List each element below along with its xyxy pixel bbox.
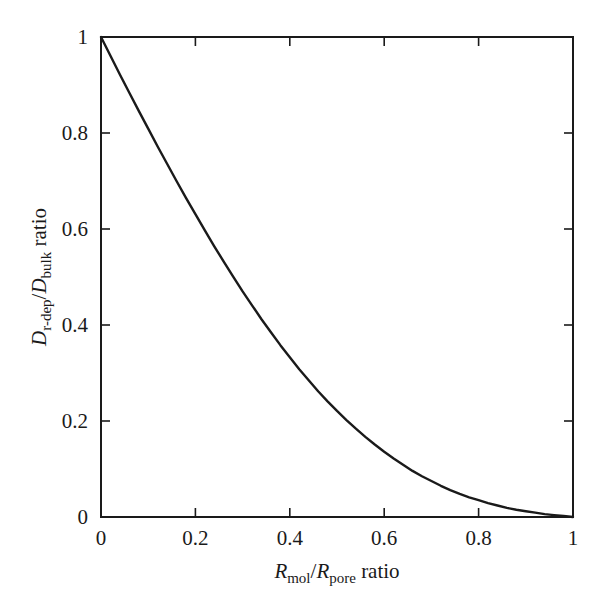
x-tick-label: 1	[568, 526, 579, 550]
x-title-main2: R	[315, 559, 329, 583]
x-tick-label: 0.2	[182, 526, 208, 550]
y-title-sub2: bulk	[38, 251, 54, 278]
y-title-main: D	[27, 331, 51, 347]
y-tick-label: 0	[78, 505, 89, 529]
y-tick-label: 0.4	[62, 313, 89, 337]
x-tick-label: 0.8	[465, 526, 491, 550]
x-title-tail: ratio	[356, 559, 400, 583]
x-title-main: R	[273, 559, 287, 583]
y-title-tail: ratio	[27, 208, 51, 252]
x-tick-label: 0	[96, 526, 107, 550]
y-tick-label: 1	[78, 25, 89, 49]
x-title-sub: mol	[287, 570, 310, 586]
figure-container: 00.20.40.60.81 00.20.40.60.81 Rmol/Rpore…	[0, 0, 600, 602]
chart-canvas: 00.20.40.60.81 00.20.40.60.81 Rmol/Rpore…	[0, 0, 600, 602]
y-title-sub: r-dep	[38, 299, 54, 330]
x-title-sub2: pore	[329, 570, 356, 586]
y-tick-label: 0.2	[62, 409, 88, 433]
x-tick-label: 0.4	[277, 526, 304, 550]
y-tick-label: 0.8	[62, 121, 88, 145]
x-tick-label: 0.6	[371, 526, 397, 550]
chart-background	[0, 0, 600, 602]
y-tick-label: 0.6	[62, 217, 88, 241]
y-title-main2: D	[27, 278, 51, 294]
